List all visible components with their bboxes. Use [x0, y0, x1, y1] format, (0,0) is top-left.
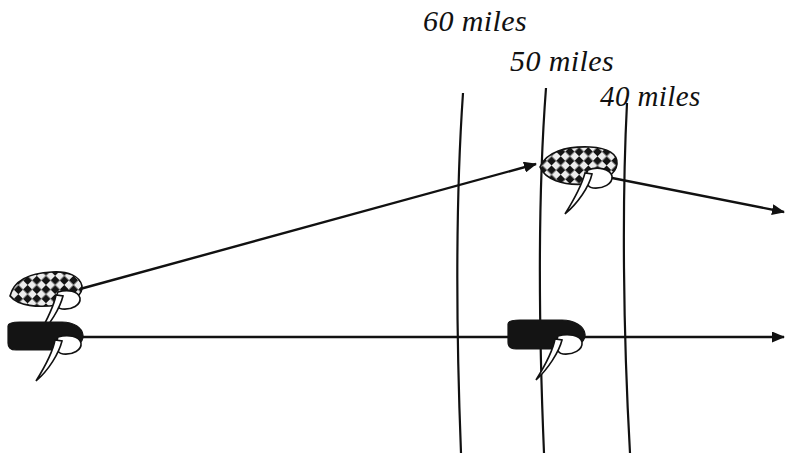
range-label-50: 50 miles — [510, 44, 614, 78]
range-line-40 — [624, 103, 630, 453]
vessel-own-end — [508, 320, 585, 380]
range-line-60 — [457, 93, 463, 453]
target-ship-track — [80, 164, 784, 289]
range-lines-group — [457, 88, 630, 453]
range-label-40: 40 miles — [600, 80, 701, 113]
target-track-outbound-line — [602, 176, 784, 212]
target-track-inbound-line — [80, 164, 536, 289]
vessel-target-end — [540, 147, 617, 214]
range-label-60: 60 miles — [423, 4, 527, 38]
nautical-range-diagram: 60 miles 50 miles 40 miles — [0, 0, 802, 453]
vessel-own-start — [8, 322, 83, 381]
range-line-50 — [540, 88, 546, 453]
diagram-canvas — [0, 0, 802, 453]
